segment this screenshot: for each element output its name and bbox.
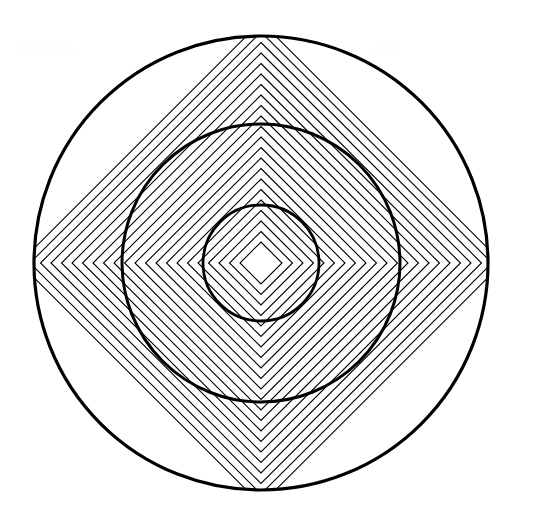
background-rect <box>0 0 533 508</box>
watermark-right: Fig <box>374 40 400 57</box>
concentric-pattern-figure: Concentric circles with nested diamond h… <box>0 0 533 508</box>
figure-canvas: Concentric circles with nested diamond h… <box>0 0 533 508</box>
watermark-left: Pattern <box>16 40 75 57</box>
